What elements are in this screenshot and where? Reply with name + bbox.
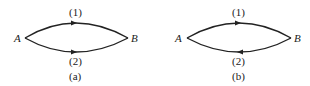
figure-caption: (a) [69, 71, 81, 82]
path-label-2: (2) [232, 56, 245, 67]
edge-1-b [187, 23, 291, 38]
path-label-2: (2) [69, 56, 82, 67]
arrow-right-icon [235, 21, 241, 26]
arrow-right-icon [71, 21, 77, 26]
figure-caption: (b) [232, 71, 245, 82]
arrow-right-icon [71, 50, 77, 55]
node-b: B [294, 33, 301, 44]
edge-2-b [187, 38, 291, 52]
figure-b: (1) A B (2) (b) [155, 0, 310, 86]
figure-a: (1) A B (2) (a) [0, 0, 155, 86]
path-label-1: (1) [69, 7, 82, 18]
edge-1-a [25, 23, 128, 38]
node-b: B [131, 33, 138, 44]
arrow-left-icon [237, 50, 243, 55]
edge-2-a [25, 38, 128, 52]
node-a: A [14, 33, 21, 44]
path-label-1: (1) [232, 7, 245, 18]
node-a: A [175, 33, 182, 44]
